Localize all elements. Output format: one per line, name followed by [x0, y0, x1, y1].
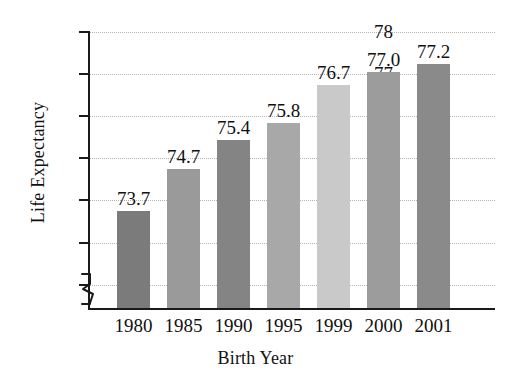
gridline: [90, 32, 495, 33]
x-axis-tick-label: 2000: [358, 316, 409, 335]
x-axis-tick-label: 1980: [108, 316, 159, 335]
bar: [117, 211, 150, 308]
x-axis-tick-label: 1995: [258, 316, 309, 335]
axis-break-icon: [80, 272, 98, 306]
bar: [167, 169, 200, 308]
y-axis-tick: [79, 31, 90, 33]
bar: [267, 123, 300, 308]
y-axis-tick: [79, 199, 90, 201]
y-axis-tick-label: 78: [353, 22, 393, 41]
bar-chart: Life Expectancy 72737475767778 73.774.77…: [0, 0, 511, 386]
y-axis-title: Life Expectancy: [28, 33, 49, 293]
x-axis-line: [88, 308, 495, 310]
x-axis-tick-label: 1999: [308, 316, 359, 335]
bar-value-label: 75.8: [259, 101, 308, 120]
bar-value-label: 73.7: [109, 189, 158, 208]
bar: [367, 72, 400, 308]
bar-value-label: 77.0: [359, 50, 408, 69]
bar: [317, 85, 350, 308]
bar-value-label: 74.7: [159, 147, 208, 166]
x-axis-title: Birth Year: [0, 348, 511, 369]
y-axis-tick: [79, 73, 90, 75]
x-axis-tick-label: 2001: [408, 316, 459, 335]
x-axis-tick-label: 1985: [158, 316, 209, 335]
x-axis-tick-label: 1990: [208, 316, 259, 335]
bar: [217, 140, 250, 308]
bar: [417, 64, 450, 308]
y-axis-tick: [79, 115, 90, 117]
bar-value-label: 76.7: [309, 63, 358, 82]
y-axis-tick: [79, 242, 90, 244]
y-axis-tick: [79, 157, 90, 159]
bar-value-label: 77.2: [409, 42, 458, 61]
plot-area: 72737475767778: [88, 32, 495, 310]
bar-value-label: 75.4: [209, 118, 258, 137]
